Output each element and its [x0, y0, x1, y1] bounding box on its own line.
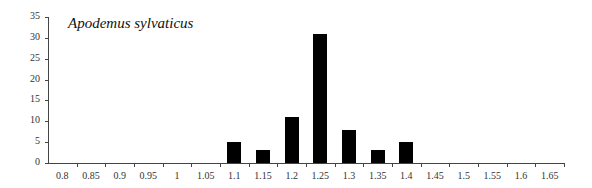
x-tick-label: 1.05: [191, 170, 221, 181]
x-tick: [335, 163, 336, 167]
x-tick: [449, 163, 450, 167]
x-tick-label: 1.5: [449, 170, 479, 181]
x-tick: [421, 163, 422, 167]
y-tick-label: 30: [18, 31, 40, 42]
y-tick-label: 15: [18, 93, 40, 104]
y-tick: [45, 100, 49, 101]
y-tick: [45, 80, 49, 81]
x-tick-label: 0.9: [105, 170, 135, 181]
x-tick-label: 1.4: [391, 170, 421, 181]
y-tick: [45, 17, 49, 18]
y-tick-label: 20: [18, 73, 40, 84]
bar-1.3: [342, 130, 356, 163]
x-tick: [392, 163, 393, 167]
y-tick-label: 5: [18, 135, 40, 146]
x-tick: [564, 163, 565, 167]
histogram-chart: Apodemus sylvaticus 051015202530350.80.8…: [0, 0, 592, 188]
bar-1.2: [285, 117, 299, 163]
x-tick: [249, 163, 250, 167]
x-tick: [535, 163, 536, 167]
y-tick: [45, 142, 49, 143]
x-tick: [220, 163, 221, 167]
bar-1.4: [399, 142, 413, 163]
x-tick: [163, 163, 164, 167]
x-tick-label: 1.15: [248, 170, 278, 181]
y-tick-label: 35: [18, 10, 40, 21]
bar-1.15: [256, 150, 270, 163]
y-axis: [48, 17, 49, 163]
x-tick: [306, 163, 307, 167]
x-tick-label: 1.2: [277, 170, 307, 181]
x-tick: [363, 163, 364, 167]
bar-1.25: [313, 34, 327, 163]
x-tick: [134, 163, 135, 167]
y-tick: [45, 38, 49, 39]
chart-title: Apodemus sylvaticus: [68, 15, 193, 32]
y-tick-label: 25: [18, 52, 40, 63]
y-tick: [45, 59, 49, 60]
x-tick-label: 1: [162, 170, 192, 181]
bar-1.35: [371, 150, 385, 163]
x-tick-label: 1.3: [334, 170, 364, 181]
x-tick-label: 0.85: [76, 170, 106, 181]
x-tick: [478, 163, 479, 167]
bar-1.1: [227, 142, 241, 163]
x-tick-label: 1.1: [219, 170, 249, 181]
x-tick: [105, 163, 106, 167]
x-tick: [191, 163, 192, 167]
x-tick: [507, 163, 508, 167]
x-tick-label: 0.8: [47, 170, 77, 181]
x-tick-label: 1.65: [535, 170, 565, 181]
x-tick-label: 1.6: [506, 170, 536, 181]
x-tick-label: 1.35: [363, 170, 393, 181]
x-tick-label: 1.45: [420, 170, 450, 181]
y-tick-label: 10: [18, 114, 40, 125]
y-tick: [45, 121, 49, 122]
y-tick: [45, 163, 49, 164]
x-tick: [77, 163, 78, 167]
x-tick-label: 0.95: [133, 170, 163, 181]
x-tick: [277, 163, 278, 167]
x-tick-label: 1.25: [305, 170, 335, 181]
x-tick-label: 1.55: [477, 170, 507, 181]
y-tick-label: 0: [18, 156, 40, 167]
